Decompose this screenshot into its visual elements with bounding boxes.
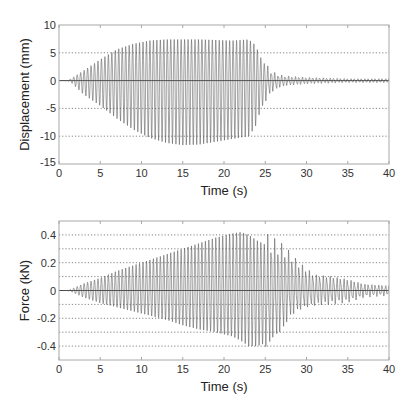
y-tick-label: -15 bbox=[40, 156, 56, 168]
y-tick-label: 5 bbox=[50, 47, 56, 59]
x-tick-label: 10 bbox=[135, 363, 147, 375]
displacement-plot: 0510152025303540-15-10-50510Time (s)Disp… bbox=[0, 0, 417, 205]
y-tick-label: -0.2 bbox=[37, 312, 56, 324]
y-axis-ticks: -15-10-50510 bbox=[40, 19, 56, 168]
y-tick-label: -0.4 bbox=[37, 340, 56, 352]
y-tick-label: -10 bbox=[40, 130, 56, 142]
figure: 0510152025303540-15-10-50510Time (s)Disp… bbox=[0, 0, 417, 417]
x-tick-label: 30 bbox=[300, 363, 312, 375]
x-tick-label: 0 bbox=[56, 167, 62, 179]
x-axis-label: Time (s) bbox=[200, 379, 247, 394]
x-tick-label: 25 bbox=[259, 363, 271, 375]
y-tick-label: 10 bbox=[44, 19, 56, 31]
x-axis-ticks: 0510152025303540 bbox=[56, 221, 395, 375]
y-axis-ticks: -0.4-0.200.20.4 bbox=[37, 229, 56, 352]
y-tick-label: 0 bbox=[50, 75, 56, 87]
force-plot: 0510152025303540-0.4-0.200.20.4Time (s)F… bbox=[0, 205, 417, 417]
y-tick-label: -5 bbox=[46, 102, 56, 114]
x-tick-label: 5 bbox=[97, 167, 103, 179]
x-tick-label: 0 bbox=[56, 363, 62, 375]
force-chart-svg: 0510152025303540-0.4-0.200.20.4Time (s)F… bbox=[0, 205, 417, 417]
y-axis-label: Displacement (mm) bbox=[17, 38, 32, 151]
x-tick-label: 30 bbox=[300, 167, 312, 179]
displacement-signal bbox=[59, 39, 389, 145]
x-tick-label: 25 bbox=[259, 167, 271, 179]
x-tick-label: 10 bbox=[135, 167, 147, 179]
x-tick-label: 40 bbox=[383, 363, 395, 375]
force-signal bbox=[59, 232, 389, 346]
displacement-chart-svg: 0510152025303540-15-10-50510Time (s)Disp… bbox=[0, 0, 417, 205]
y-tick-label: 0 bbox=[50, 285, 56, 297]
x-tick-label: 15 bbox=[177, 167, 189, 179]
y-tick-label: 0.2 bbox=[41, 257, 56, 269]
x-tick-label: 35 bbox=[342, 363, 354, 375]
x-tick-label: 20 bbox=[218, 363, 230, 375]
x-tick-label: 20 bbox=[218, 167, 230, 179]
x-tick-label: 40 bbox=[383, 167, 395, 179]
x-tick-label: 35 bbox=[342, 167, 354, 179]
y-tick-label: 0.4 bbox=[41, 229, 56, 241]
y-axis-label: Force (kN) bbox=[17, 260, 32, 321]
x-tick-label: 15 bbox=[177, 363, 189, 375]
x-tick-label: 5 bbox=[97, 363, 103, 375]
x-axis-label: Time (s) bbox=[200, 183, 247, 198]
